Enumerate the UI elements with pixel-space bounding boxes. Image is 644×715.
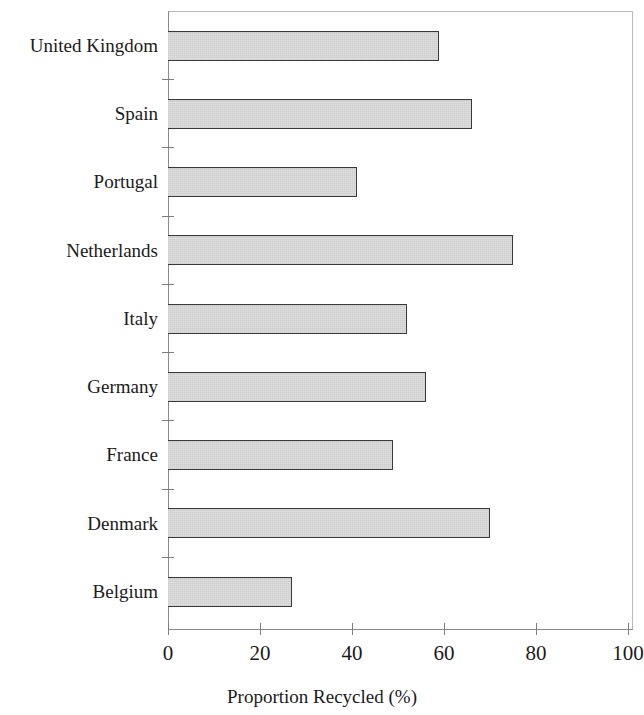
y-axis-label-spain: Spain: [0, 104, 158, 124]
y-tick-mark: [162, 352, 174, 353]
x-tick-mark: [444, 623, 445, 635]
x-tick-label-20: 20: [230, 641, 290, 665]
y-tick-mark: [162, 557, 174, 558]
y-tick-mark: [162, 216, 174, 217]
bar-netherlands: [168, 235, 513, 265]
x-tick-label-100: 100: [598, 641, 644, 665]
x-tick-mark: [168, 623, 169, 635]
y-axis-label-belgium: Belgium: [0, 582, 158, 602]
x-tick-label-60: 60: [414, 641, 474, 665]
x-tick-label-40: 40: [322, 641, 382, 665]
bar-france: [168, 440, 393, 470]
y-axis-label-netherlands: Netherlands: [0, 241, 158, 261]
bar-chart: United Kingdom Spain Portugal Netherland…: [0, 0, 644, 715]
x-tick-mark: [536, 623, 537, 635]
bar-spain: [168, 99, 472, 129]
bar-denmark: [168, 508, 490, 538]
y-tick-mark: [162, 79, 174, 80]
y-axis-label-france: France: [0, 445, 158, 465]
y-tick-mark: [162, 489, 174, 490]
bar-portugal: [168, 167, 357, 197]
bar-italy: [168, 304, 407, 334]
y-axis-label-portugal: Portugal: [0, 172, 158, 192]
y-axis-label-italy: Italy: [0, 309, 158, 329]
y-axis-label-germany: Germany: [0, 377, 158, 397]
x-axis-title: Proportion Recycled (%): [0, 686, 644, 708]
x-tick-label-80: 80: [506, 641, 566, 665]
bar-germany: [168, 372, 426, 402]
x-tick-mark: [260, 623, 261, 635]
y-tick-mark: [162, 284, 174, 285]
y-tick-mark: [162, 147, 174, 148]
y-tick-mark: [162, 420, 174, 421]
y-axis-label-denmark: Denmark: [0, 514, 158, 534]
x-tick-mark: [628, 623, 629, 635]
x-tick-label-0: 0: [138, 641, 198, 665]
bar-belgium: [168, 577, 292, 607]
bar-united-kingdom: [168, 31, 439, 61]
x-tick-mark: [352, 623, 353, 635]
y-axis-label-united-kingdom: United Kingdom: [0, 36, 158, 56]
